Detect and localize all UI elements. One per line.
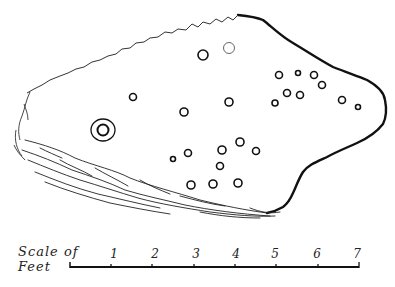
scale-bar [70,262,359,268]
cup-mark [319,82,326,89]
scale-tick-3: 3 [192,248,200,260]
cup-mark [296,71,301,76]
cup-mark [198,50,208,60]
cup-mark [284,90,291,97]
scale-label-line2: Feet [18,260,51,273]
cup-mark [171,157,176,162]
scale-tick-5: 5 [271,248,279,260]
scale-tick-4: 4 [232,248,240,260]
cup-mark [187,181,195,189]
cup-mark [217,163,224,170]
cup-mark [218,146,226,154]
cup-mark [272,100,278,106]
cup-marks [130,43,361,190]
stone-outline-top [27,15,238,93]
cup-mark [236,138,244,146]
scale-label-line1: Scale of [18,245,79,258]
scale-tick-2: 2 [151,248,159,260]
cup-mark [311,72,318,79]
cup-mark [339,97,346,104]
cup-mark [224,43,235,54]
cup-mark [180,108,188,116]
scale-tick-1: 1 [110,248,118,260]
cup-mark [276,72,283,79]
cup-mark [130,94,137,101]
scale-tick-6: 6 [313,248,321,260]
cup-mark [297,92,304,99]
ring-mark [91,119,115,141]
cup-mark [209,180,217,188]
cup-mark [356,105,361,110]
stone-outline-right [238,15,386,213]
cup-mark [253,148,260,155]
stone-bottom-weathering [22,140,280,218]
scale-tick-7: 7 [353,248,361,260]
cup-mark [185,150,192,157]
cup-mark [234,179,242,187]
cup-mark [225,98,233,106]
